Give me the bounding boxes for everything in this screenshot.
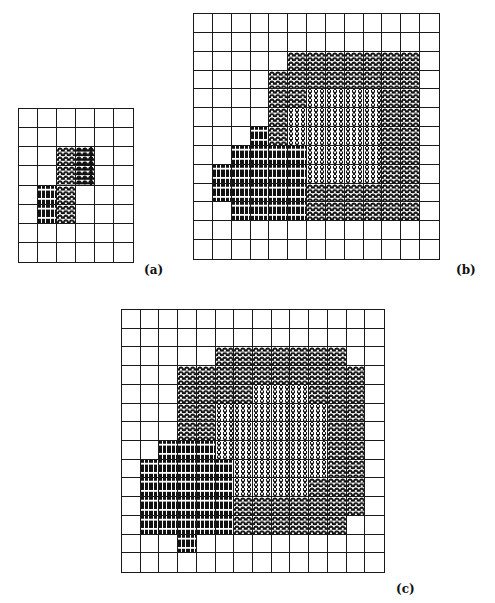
grid-cell-arch-texture (382, 165, 401, 184)
grid-cell-empty (159, 535, 178, 554)
grid-cell-empty (232, 221, 251, 240)
grid-cell-brick-texture (232, 202, 251, 221)
grid-cell-arch-texture (269, 127, 288, 146)
grid-cell-brick-texture (269, 202, 288, 221)
grid-cell-empty (347, 329, 366, 348)
grid-cell-empty (251, 221, 270, 240)
grid-cell-empty (365, 404, 384, 423)
grid-cell-empty (307, 240, 326, 259)
grid-cell-brick-texture (178, 516, 197, 535)
grid-cell-empty (420, 240, 439, 259)
grid-cell-empty (420, 184, 439, 203)
grid-cell-arch-texture (197, 385, 216, 404)
grid-cell-arch-texture (290, 497, 309, 516)
grid-cell-empty (141, 441, 160, 460)
grid-cell-arch-texture (234, 516, 253, 535)
grid-cell-empty (197, 310, 216, 329)
grid-cell-arch-texture (328, 478, 347, 497)
grid-cell-pillar-texture (290, 441, 309, 460)
grid-cell-arch-texture (364, 202, 383, 221)
grid-cell-arch-texture (401, 127, 420, 146)
grid-cell-empty (328, 535, 347, 554)
grid-cell-pillar-texture (234, 460, 253, 479)
grid-cell-arch-texture (197, 422, 216, 441)
grid-cell-empty (213, 240, 232, 259)
grid-cell-arch-texture (272, 347, 291, 366)
grid-cell-arch-texture (328, 497, 347, 516)
grid-cell-empty (114, 205, 133, 224)
grid-cell-empty (38, 224, 57, 243)
grid-cell-arch-texture (309, 516, 328, 535)
grid-cell-arch-texture (382, 108, 401, 127)
grid-cell-empty (365, 329, 384, 348)
grid-cell-empty (122, 422, 141, 441)
grid-cell-empty (19, 205, 38, 224)
grid-cell-arch-texture (272, 497, 291, 516)
grid-cell-empty (159, 422, 178, 441)
grid-cell-empty (345, 221, 364, 240)
grid-cell-empty (269, 240, 288, 259)
grid-cell-empty (76, 186, 95, 205)
grid-cell-empty (95, 128, 114, 147)
grid-cell-empty (95, 109, 114, 128)
grid-cell-empty (95, 243, 114, 262)
grid-cell-empty (290, 535, 309, 554)
grid-cell-arch-texture (364, 71, 383, 90)
grid-cell-empty (213, 127, 232, 146)
grid-cell-arch-texture (290, 347, 309, 366)
grid-cell-pillar-texture (309, 441, 328, 460)
grid-cell-empty (194, 240, 213, 259)
grid-cell-empty (269, 221, 288, 240)
grid-cell-arch-texture (328, 441, 347, 460)
grid-cell-arch-texture (347, 497, 366, 516)
grid-cell-empty (290, 553, 309, 572)
grid-cell-empty (345, 240, 364, 259)
grid-cell-arch-texture (326, 184, 345, 203)
grid-cell-pillar-texture (364, 165, 383, 184)
grid-cell-empty (251, 240, 270, 259)
grid-cell-empty (365, 516, 384, 535)
grid-cell-empty (347, 516, 366, 535)
grid-cell-empty (38, 166, 57, 185)
grid-cell-empty (159, 310, 178, 329)
grid-cell-brick-texture (141, 497, 160, 516)
grid-cell-empty (178, 329, 197, 348)
grid-cell-empty (197, 535, 216, 554)
grid-cell-empty (251, 33, 270, 52)
grid-cell-arch-texture (309, 366, 328, 385)
grid-cell-pillar-texture (326, 127, 345, 146)
grid-cell-empty (234, 535, 253, 554)
grid-cell-empty (159, 329, 178, 348)
grid-cell-empty (141, 366, 160, 385)
grid-cell-brick-texture (269, 165, 288, 184)
grid-cell-arch-texture (364, 52, 383, 71)
grid-cell-arch-texture (288, 52, 307, 71)
grid-cell-arch-texture (234, 366, 253, 385)
grid-cell-arch-texture (347, 366, 366, 385)
grid-cell-arch-texture (234, 347, 253, 366)
grid-cell-arch-texture (253, 497, 272, 516)
grid-cell-arch-texture (382, 146, 401, 165)
grid-cell-empty (57, 128, 76, 147)
grid-cell-arch-texture (364, 184, 383, 203)
grid-cell-arch-texture (382, 184, 401, 203)
grid-cell-empty (19, 186, 38, 205)
grid-cell-empty (347, 553, 366, 572)
grid-cell-empty (309, 553, 328, 572)
grid-cell-empty (365, 385, 384, 404)
grid-cell-empty (122, 497, 141, 516)
grid-cell-arch-texture (57, 147, 76, 166)
grid-cell-arch-texture (288, 71, 307, 90)
grid-cell-empty (232, 71, 251, 90)
grid-cell-brick-texture (141, 478, 160, 497)
grid-cell-empty (122, 347, 141, 366)
grid-cell-empty (19, 128, 38, 147)
grid-cell-empty (76, 224, 95, 243)
grid-cell-brick-texture (159, 516, 178, 535)
grid-cell-empty (401, 240, 420, 259)
grid-cell-empty (326, 14, 345, 33)
grid-cell-empty (347, 535, 366, 554)
grid-cell-empty (328, 310, 347, 329)
grid-cell-pillar-texture (272, 422, 291, 441)
grid-cell-empty (232, 240, 251, 259)
